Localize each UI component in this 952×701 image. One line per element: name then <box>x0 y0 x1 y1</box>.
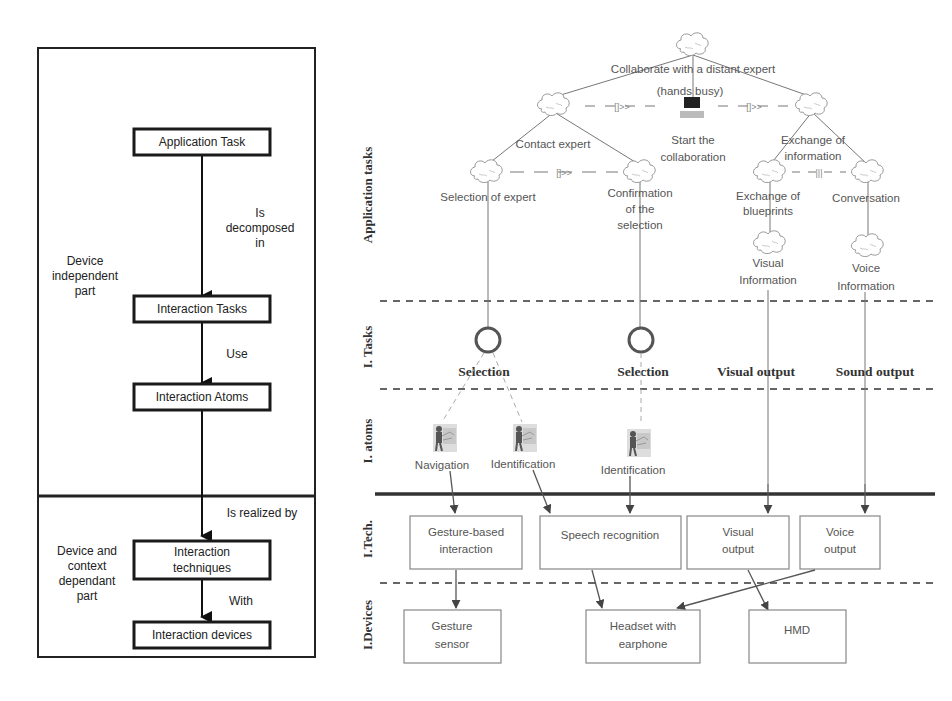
svg-text:Visual: Visual <box>722 526 753 538</box>
technique-speech-recognition: Speech recognition <box>540 516 681 569</box>
svg-text:earphone: earphone <box>619 638 668 650</box>
edge-label-with: With <box>229 594 253 608</box>
interaction-task-circle-icon-1 <box>476 328 500 352</box>
task-visual-information: Visual Information <box>739 257 797 286</box>
box-application-task: Application Task <box>134 129 270 155</box>
svg-text:blueprints: blueprints <box>743 205 793 217</box>
region-label-independent: Device independent part <box>52 254 119 298</box>
layer-label-interaction-atoms: I. atoms <box>360 419 375 464</box>
svg-text:HMD: HMD <box>784 624 810 636</box>
device-headset: Headset with earphone <box>586 610 700 663</box>
region-label-dependent: Device and context dependant part <box>57 544 117 603</box>
svg-text:Exchange of: Exchange of <box>781 134 846 146</box>
svg-text:interaction: interaction <box>439 543 492 555</box>
task-cloud-icon-root <box>677 33 709 56</box>
atom-navigation: Navigation <box>415 459 469 471</box>
layer-label-application-tasks: Application tasks <box>360 147 375 243</box>
task-start-collaboration: Start the collaboration <box>660 134 725 163</box>
interaction-task-sound-output: Sound output <box>836 364 915 379</box>
svg-text:part: part <box>75 284 96 298</box>
device-hmd: HMD <box>749 610 846 663</box>
task-selection-of-expert: Selection of expert <box>440 191 536 203</box>
task-cloud-icon-visual-info <box>754 231 786 254</box>
person-atom-icon-identification-2 <box>627 429 651 457</box>
layer-label-interaction-tasks: I. Tasks <box>360 326 375 369</box>
task-cloud-icon-confirmation <box>624 160 656 183</box>
svg-text:Visual: Visual <box>752 257 783 269</box>
svg-text:Information: Information <box>837 280 895 292</box>
interaction-task-selection-2: Selection <box>617 364 669 379</box>
box-interaction-techniques: Interaction techniques <box>134 541 270 579</box>
svg-text:Headset with: Headset with <box>610 620 676 632</box>
svg-text:part: part <box>77 589 98 603</box>
svg-text:output: output <box>722 543 755 555</box>
svg-text:Application Task: Application Task <box>159 135 246 149</box>
svg-text:sensor: sensor <box>435 638 470 650</box>
svg-text:selection: selection <box>617 219 662 231</box>
layer-label-interaction-techniques: I.Tech. <box>360 520 375 558</box>
right-panel: Application tasks I. Tasks I. atoms I.Te… <box>360 33 935 663</box>
svg-text:Interaction: Interaction <box>174 545 230 559</box>
task-cloud-icon-selection-expert <box>471 160 503 183</box>
svg-text:techniques: techniques <box>173 561 231 575</box>
svg-text:Gesture-based: Gesture-based <box>428 526 504 538</box>
svg-text:Confirmation: Confirmation <box>607 187 672 199</box>
svg-text:in: in <box>255 236 264 250</box>
person-atom-icon-identification-1 <box>513 424 537 452</box>
edge-label-decomposed: Is decomposed in <box>226 206 295 250</box>
task-cloud-icon-conversation <box>852 160 884 183</box>
box-interaction-atoms: Interaction Atoms <box>134 384 270 410</box>
box-interaction-tasks: Interaction Tasks <box>134 296 270 322</box>
interaction-task-circle-icon-2 <box>629 328 653 352</box>
task-cloud-icon-exchange <box>796 93 828 116</box>
edge-label-realized: Is realized by <box>227 506 298 520</box>
task-voice-information: Voice Information <box>837 262 895 292</box>
task-conversation: Conversation <box>832 192 900 204</box>
svg-text:decomposed: decomposed <box>226 221 295 235</box>
atom-identification-1: Identification <box>491 458 556 470</box>
svg-text:[]>>: []>> <box>556 168 572 178</box>
left-panel: Application Task Interaction Tasks Inter… <box>38 48 315 657</box>
svg-text:output: output <box>824 543 857 555</box>
layer-label-interaction-devices: I.Devices <box>360 600 375 650</box>
svg-text:information: information <box>785 150 842 162</box>
technique-voice-output: Voice output <box>800 516 880 569</box>
task-contact-expert: Contact expert <box>516 138 592 150</box>
atom-technique-links <box>450 470 865 513</box>
task-cloud-icon-voice-info <box>852 234 884 257</box>
task-exchange-blueprints: Exchange of blueprints <box>736 190 801 217</box>
svg-text:Collaborate with a distant exp: Collaborate with a distant expert <box>611 63 776 75</box>
interaction-task-visual-output: Visual output <box>717 364 795 379</box>
svg-text:of the: of the <box>626 203 655 215</box>
svg-text:Voice: Voice <box>852 262 880 274</box>
svg-text:dependant: dependant <box>59 574 116 588</box>
task-exchange-information: Exchange of information <box>781 134 846 162</box>
edge-label-use: Use <box>226 347 248 361</box>
svg-text:Interaction Tasks: Interaction Tasks <box>157 302 247 316</box>
svg-text:Start the: Start the <box>671 134 714 146</box>
person-atom-icon-navigation <box>433 424 457 452</box>
svg-text:(hands busy): (hands busy) <box>657 85 724 97</box>
computer-task-icon <box>680 97 704 118</box>
svg-text:Speech recognition: Speech recognition <box>561 529 659 541</box>
svg-text:[]>>: []>> <box>614 102 630 112</box>
svg-text:[]>>: []>> <box>746 102 762 112</box>
svg-text:Device: Device <box>67 254 104 268</box>
svg-text:context: context <box>68 559 107 573</box>
svg-text:Information: Information <box>739 274 797 286</box>
svg-text:Gesture: Gesture <box>432 620 473 632</box>
svg-text:Voice: Voice <box>826 526 854 538</box>
task-cloud-icon-contact <box>538 93 570 116</box>
task-cloud-icon-blueprints <box>754 160 786 183</box>
technique-gesture-based: Gesture-based interaction <box>410 516 522 569</box>
technique-visual-output: Visual output <box>687 516 789 569</box>
interaction-task-selection-1: Selection <box>458 364 510 379</box>
svg-text:Exchange of: Exchange of <box>736 190 801 202</box>
svg-text:independent: independent <box>52 269 119 283</box>
box-interaction-devices: Interaction devices <box>134 622 270 648</box>
technique-device-links <box>456 570 815 610</box>
atom-identification-2: Identification <box>601 464 666 476</box>
svg-text:Interaction Atoms: Interaction Atoms <box>156 390 249 404</box>
svg-text:Is: Is <box>255 206 264 220</box>
task-confirmation: Confirmation of the selection <box>607 187 672 231</box>
